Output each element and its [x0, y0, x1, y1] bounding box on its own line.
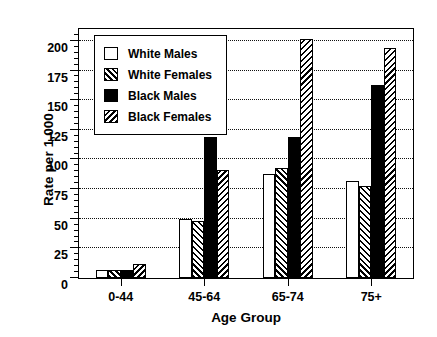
gridline — [79, 158, 413, 159]
y-tick-minor — [74, 170, 79, 171]
bar — [263, 174, 276, 278]
bar — [108, 270, 121, 278]
bar — [121, 270, 134, 278]
y-tick — [70, 99, 79, 100]
y-tick-minor — [74, 259, 79, 260]
plot-area: 0255075100125150175200 0-4445-6465-7475+… — [78, 28, 414, 279]
bar — [179, 219, 192, 278]
y-tick-minor — [74, 182, 79, 183]
y-tick-minor — [74, 230, 79, 231]
x-axis-title: Age Group — [78, 310, 414, 325]
y-tick-minor — [74, 135, 79, 136]
y-tick-minor — [74, 176, 79, 177]
bar — [384, 48, 397, 278]
legend-item-label: Black Females — [128, 110, 211, 124]
y-tick-minor — [74, 81, 79, 82]
y-tick-minor — [74, 46, 79, 47]
legend-item: Black Males — [104, 85, 212, 106]
y-tick-minor — [74, 52, 79, 53]
y-tick-minor — [74, 64, 79, 65]
bar — [217, 170, 230, 278]
y-tick — [70, 158, 79, 159]
y-tick — [70, 188, 79, 189]
y-tick-minor — [74, 111, 79, 112]
y-tick-minor — [74, 236, 79, 237]
bar — [275, 168, 288, 278]
y-tick-minor — [74, 75, 79, 76]
y-tick-minor — [74, 105, 79, 106]
y-tick — [70, 70, 79, 71]
legend-swatch-icon — [104, 110, 118, 123]
x-tick-label: 0-44 — [108, 290, 133, 304]
y-tick-minor — [74, 93, 79, 94]
y-tick — [70, 247, 79, 248]
y-tick-minor — [74, 206, 79, 207]
x-tick — [288, 278, 289, 286]
y-tick — [70, 129, 79, 130]
legend-swatch-icon — [104, 68, 118, 81]
x-tick — [371, 278, 372, 286]
legend-item: White Males — [104, 43, 212, 64]
bar — [371, 85, 384, 278]
y-tick-minor — [74, 194, 79, 195]
bar — [359, 186, 372, 278]
bar — [133, 264, 146, 278]
x-tick — [121, 278, 122, 286]
y-tick-minor — [74, 200, 79, 201]
y-tick-minor — [74, 271, 79, 272]
legend-item-label: White Females — [128, 68, 212, 82]
legend-item: Black Females — [104, 106, 212, 127]
y-tick-minor — [74, 34, 79, 35]
legend-item-label: White Males — [128, 47, 197, 61]
legend-swatch-icon — [104, 47, 118, 60]
y-tick-minor — [74, 123, 79, 124]
y-tick-minor — [74, 241, 79, 242]
y-tick-minor — [74, 265, 79, 266]
y-tick-minor — [74, 253, 79, 254]
y-tick-minor — [74, 87, 79, 88]
x-tick — [204, 278, 205, 286]
y-tick-minor — [74, 224, 79, 225]
bar — [346, 181, 359, 278]
y-tick — [70, 277, 79, 278]
legend-item-label: Black Males — [128, 89, 197, 103]
y-tick-minor — [74, 117, 79, 118]
bar — [288, 137, 301, 278]
y-tick-minor — [74, 58, 79, 59]
y-tick-minor — [74, 212, 79, 213]
x-tick-label: 65-74 — [272, 290, 304, 304]
legend-item: White Females — [104, 64, 212, 85]
y-tick-minor — [74, 147, 79, 148]
y-tick-minor — [74, 141, 79, 142]
bar — [300, 39, 313, 279]
chart-figure: Rate per 1,000 Age Group 025507510012515… — [0, 0, 437, 337]
y-tick — [70, 218, 79, 219]
bar — [96, 270, 109, 278]
bar — [204, 137, 217, 278]
y-tick — [70, 40, 79, 41]
x-tick-label: 75+ — [361, 290, 382, 304]
y-tick-minor — [74, 164, 79, 165]
bar — [192, 221, 205, 278]
legend-swatch-icon — [104, 89, 118, 102]
legend: White MalesWhite FemalesBlack MalesBlack… — [94, 35, 227, 135]
x-tick-label: 45-64 — [188, 290, 220, 304]
y-tick-minor — [74, 153, 79, 154]
